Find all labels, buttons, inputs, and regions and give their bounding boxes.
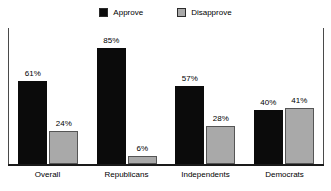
bar-rect-democrats-approve [254,110,283,164]
bar-value-overall-disapprove: 24% [56,119,72,129]
bar-value-republicans-approve: 85% [103,36,119,46]
bar-republicans-approve: 85% [97,28,126,164]
category-label-democrats: Democrats [245,170,324,180]
x-axis-baseline [8,164,324,166]
bar-value-overall-approve: 61% [25,69,41,79]
bar-independents-disapprove: 28% [206,28,235,164]
bar-value-republicans-disapprove: 6% [136,144,148,154]
bar-groups: 61% 24% 85% 6% [9,28,323,164]
bar-independents-approve: 57% [175,28,204,164]
legend-swatch-approve-icon [99,8,108,17]
bar-chart: Approve Disapprove 61% 24% 85 [0,0,331,191]
bar-value-democrats-disapprove: 41% [291,96,307,106]
bar-group-democrats: 40% 41% [245,28,324,164]
category-label-overall: Overall [8,170,87,180]
legend-entry-disapprove: Disapprove [177,8,231,17]
bar-overall-disapprove: 24% [49,28,78,164]
bar-rect-democrats-disapprove [285,108,314,164]
bar-democrats-disapprove: 41% [285,28,314,164]
chart-legend: Approve Disapprove [0,8,331,17]
bar-value-independents-disapprove: 28% [213,114,229,124]
bar-rect-republicans-disapprove [128,156,157,164]
bar-rect-republicans-approve [97,48,126,164]
category-label-republicans: Republicans [87,170,166,180]
legend-label-approve: Approve [113,8,143,17]
category-label-independents: Independents [166,170,245,180]
bar-republicans-disapprove: 6% [128,28,157,164]
legend-swatch-disapprove-icon [177,8,186,17]
bar-value-independents-approve: 57% [182,74,198,84]
bar-rect-overall-disapprove [49,131,78,164]
x-axis-category-labels: Overall Republicans Independents Democra… [8,170,324,180]
bar-democrats-approve: 40% [254,28,283,164]
bar-group-independents: 57% 28% [166,28,245,164]
bar-rect-overall-approve [18,81,47,164]
legend-entry-approve: Approve [99,8,143,17]
plot-frame-right [323,28,324,166]
bar-rect-independents-approve [175,86,204,164]
plot-area: 61% 24% 85% 6% [8,28,324,166]
bar-rect-independents-disapprove [206,126,235,164]
bar-group-republicans: 85% 6% [88,28,167,164]
legend-label-disapprove: Disapprove [191,8,231,17]
bar-group-overall: 61% 24% [9,28,88,164]
bar-overall-approve: 61% [18,28,47,164]
bar-value-democrats-approve: 40% [260,98,276,108]
